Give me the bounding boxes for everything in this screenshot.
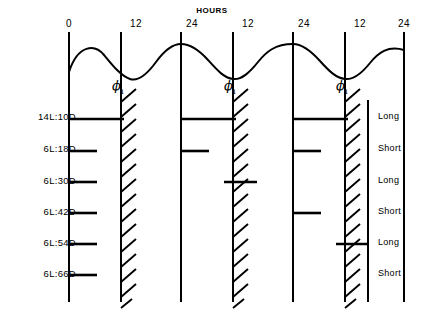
photoinducible-phase-band-1: [233, 89, 248, 308]
axis-tick-marks: [69, 32, 404, 38]
photoinducible-phase-band-2: [345, 89, 360, 308]
circadian-photoperiod-figure: HOURS 0 12 24 12 24 12 24 14L:10D 6L:18D…: [0, 0, 426, 320]
photoinducible-phase-band-0: [121, 89, 136, 308]
figure-vector-layer: [0, 0, 426, 320]
circadian-rhythm-curve: [69, 44, 404, 80]
